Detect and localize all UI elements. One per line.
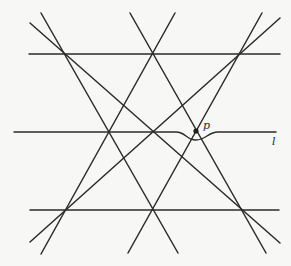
line-f [30,18,280,242]
label-p: p [203,119,210,132]
point-p [193,128,198,133]
label-l: l [272,135,276,148]
slanted-lines [30,13,280,254]
line-arrangement-diagram: p l [0,0,291,266]
